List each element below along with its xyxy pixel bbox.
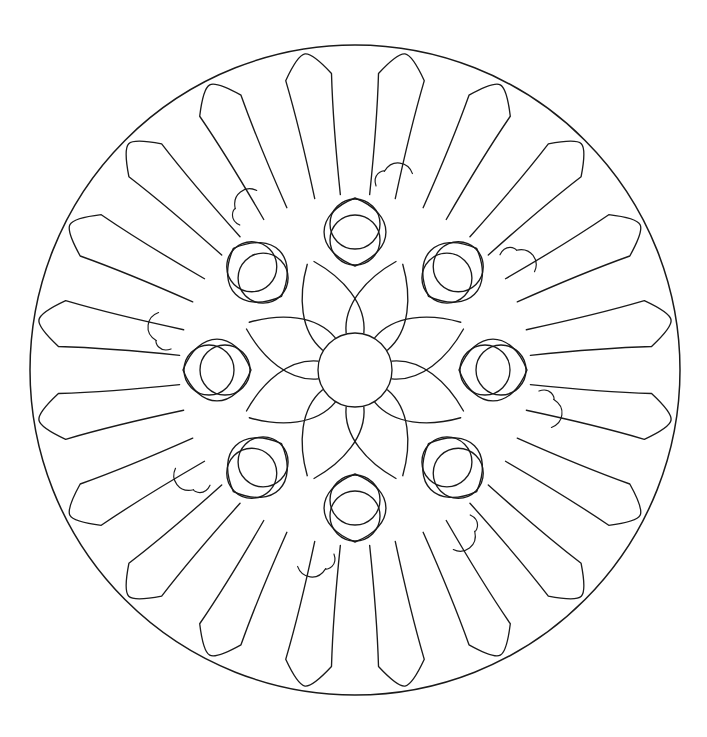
mandala-drawing (0, 0, 707, 737)
mandala-artboard (0, 0, 707, 737)
center-hub-circle (318, 333, 392, 407)
center-hub (318, 333, 392, 407)
